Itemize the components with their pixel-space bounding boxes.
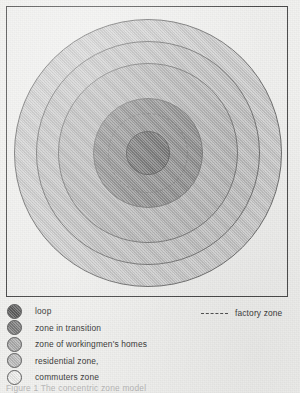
legend-item-factory-zone[interactable]: factory zone: [201, 309, 282, 317]
legend-item-residential-zone[interactable]: residential zone,: [7, 353, 197, 370]
legend-swatch-loop: [7, 304, 22, 319]
legend-swatch-residential-zone: [7, 353, 22, 368]
zone-ring-loop: [126, 131, 170, 175]
legend-swatch-workingmens-homes: [7, 337, 22, 352]
figure-page: loop zone in transition zone of workingm…: [0, 0, 300, 393]
legend-swatch-commuters-zone: [7, 370, 22, 385]
legend-label-loop: loop: [35, 307, 51, 315]
figure-caption: Figure 1 The concentric zone model: [6, 384, 296, 393]
diagram-frame: [6, 6, 288, 297]
legend-label-zone-in-transition: zone in transition: [35, 324, 101, 332]
dashed-line-icon: [201, 313, 228, 314]
legend: loop zone in transition zone of workingm…: [7, 303, 197, 386]
legend-swatch-zone-in-transition: [7, 320, 22, 335]
concentric-zone-diagram: [7, 7, 289, 298]
legend-label-commuters-zone: commuters zone: [35, 373, 99, 381]
legend-item-zone-in-transition[interactable]: zone in transition: [7, 320, 197, 337]
legend-item-loop[interactable]: loop: [7, 303, 197, 320]
legend-item-workingmens-homes[interactable]: zone of workingmen's homes: [7, 336, 197, 353]
legend-label-workingmens-homes: zone of workingmen's homes: [35, 340, 147, 348]
legend-label-residential-zone: residential zone,: [35, 357, 99, 365]
legend-label-factory-zone: factory zone: [235, 309, 282, 317]
